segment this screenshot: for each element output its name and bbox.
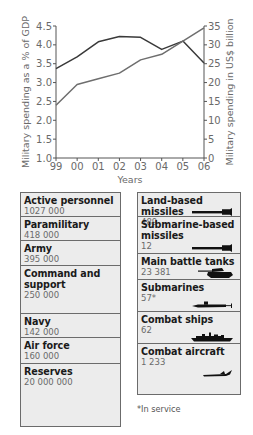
personnel-value: 395 000 (24, 254, 117, 265)
y-axis-label-right: Military spending in US$ billion (224, 19, 235, 166)
personnel-row: Navy142 000 (21, 314, 120, 338)
personnel-row: Air force160 000 (21, 338, 120, 364)
y-tick-label-left: 3.5 (36, 58, 52, 69)
personnel-label: Reserves (24, 366, 117, 377)
personnel-value: 418 000 (24, 230, 117, 241)
y-tick-label-right: 20 (208, 77, 221, 88)
chart-axes: 1.01.52.02.53.03.54.04.50510152025303599… (36, 21, 221, 173)
personnel-label: Air force (24, 340, 117, 351)
y-tick-label-left: 3.0 (36, 77, 52, 88)
y-tick-label-right: 5 (208, 134, 214, 145)
personnel-label: Navy (24, 316, 117, 327)
personnel-value: 1027 000 (24, 206, 117, 217)
y-tick-label-left: 4.5 (36, 21, 52, 32)
aircraft-icon (202, 362, 234, 381)
personnel-value: 20 000 000 (24, 377, 117, 388)
x-tick-label: 02 (113, 161, 126, 172)
equipment-row: Land-based missiles489 (138, 193, 240, 217)
y-tick-label-left: 4.0 (36, 39, 52, 50)
x-tick-label: 06 (198, 161, 211, 172)
y-tick-label-right: 35 (208, 21, 221, 32)
personnel-value: 160 000 (24, 351, 117, 362)
y-tick-label-right: 30 (208, 39, 221, 50)
chart-series (56, 28, 204, 105)
y-tick-label-right: 10 (208, 115, 221, 126)
equipment-row: Combat ships62 (138, 312, 240, 344)
personnel-value: 142 000 (24, 327, 117, 338)
equipment-label: Submarines (141, 282, 237, 293)
military-spending-chart: 1.01.52.02.53.03.54.04.50510152025303599… (0, 0, 253, 185)
personnel-row: Command and support250 000 (21, 266, 120, 314)
series-usd-billion-line (56, 28, 204, 105)
x-tick-label: 04 (155, 161, 168, 172)
personnel-row: Active personnel1027 000 (21, 193, 120, 217)
equipment-row: Combat aircraft1 233 (138, 344, 240, 394)
x-tick-label: 99 (50, 161, 63, 172)
x-tick-label: 00 (71, 161, 84, 172)
equipment-row: Main battle tanks23 381 (138, 254, 240, 280)
equipment-label: Combat aircraft (141, 346, 237, 357)
personnel-label: Army (24, 243, 117, 254)
y-tick-label-right: 15 (208, 96, 221, 107)
equipment-row: Submarine-based missiles12 (138, 217, 240, 254)
y-axis-label-left: Military spending as a % of GDP (20, 16, 31, 168)
equipment-label: Combat ships (141, 314, 237, 325)
y-tick-label-left: 2.5 (36, 96, 52, 107)
personnel-row: Paramilitary418 000 (21, 217, 120, 241)
x-tick-label: 03 (134, 161, 147, 172)
personnel-label: Active personnel (24, 195, 117, 206)
footnote: *In service (137, 404, 181, 414)
personnel-label: Command and support (24, 268, 117, 290)
personnel-label: Paramilitary (24, 219, 117, 230)
x-tick-label: 05 (176, 161, 189, 172)
equipment-row: Submarines57* (138, 280, 240, 312)
personnel-row: Reserves20 000 000 (21, 364, 120, 400)
y-tick-label-left: 2.0 (36, 115, 52, 126)
x-tick-label: 01 (92, 161, 105, 172)
personnel-table: Active personnel1027 000Paramilitary418 … (20, 192, 121, 427)
y-tick-label-right: 25 (208, 58, 221, 69)
x-axis-label: Years (116, 174, 142, 185)
equipment-table: Land-based missiles489Submarine-based mi… (137, 192, 241, 395)
personnel-row: Army395 000 (21, 241, 120, 266)
y-tick-label-left: 1.5 (36, 134, 52, 145)
personnel-value: 250 000 (24, 290, 117, 301)
